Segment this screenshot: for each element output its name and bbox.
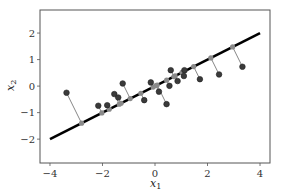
projected-point — [138, 91, 143, 96]
data-point — [181, 73, 187, 79]
projected-point — [230, 44, 235, 49]
projection-segment — [67, 93, 82, 123]
y-tick-label: 1 — [29, 54, 35, 65]
y-tick-label: −2 — [20, 134, 35, 145]
projected-point — [128, 96, 133, 101]
data-point — [167, 83, 173, 89]
projected-point — [155, 82, 160, 87]
y-tick-label: 2 — [29, 28, 35, 39]
data-point — [197, 76, 203, 82]
plot-area — [50, 33, 260, 139]
y-axis-label: x2 — [4, 80, 18, 91]
projected-point — [191, 64, 196, 69]
y-tick-label: −1 — [20, 107, 35, 118]
data-point — [216, 72, 222, 78]
projection-segment — [233, 47, 243, 67]
data-point — [141, 97, 147, 103]
data-point — [164, 101, 170, 107]
data-point — [182, 67, 188, 73]
projected-point — [99, 110, 104, 115]
data-point — [156, 89, 162, 95]
data-point — [240, 64, 246, 70]
data-point — [64, 90, 70, 96]
data-point — [168, 67, 174, 73]
data-point — [95, 103, 101, 109]
data-point — [175, 78, 181, 84]
scatter-chart: −4−2024−2−1012 x1 x2 — [0, 0, 282, 193]
projected-point — [79, 121, 84, 126]
data-point — [104, 102, 110, 108]
data-point — [115, 95, 121, 101]
data-point — [148, 80, 154, 86]
projected-point — [208, 55, 213, 60]
projected-point — [164, 78, 169, 83]
y-tick-label: 0 — [29, 81, 35, 92]
projected-point — [172, 73, 177, 78]
x-tick-label: −2 — [95, 168, 110, 179]
x-tick-label: 2 — [204, 168, 210, 179]
data-point — [120, 81, 126, 87]
projected-point — [118, 101, 123, 106]
x-axis-label: x1 — [150, 177, 161, 191]
x-tick-label: 4 — [257, 168, 263, 179]
x-tick-label: −4 — [43, 168, 58, 179]
